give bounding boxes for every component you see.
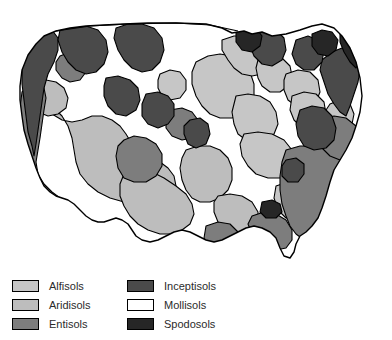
legend-label-alfisols: Alfisols xyxy=(49,280,84,292)
legend-swatch-mollisols xyxy=(127,299,154,311)
legend-item-spodosols[interactable]: Spodosols xyxy=(127,314,216,333)
legend-swatch-spodosols xyxy=(127,318,154,330)
legend-label-entisols: Entisols xyxy=(49,318,88,330)
region-spodosols-lake-superior xyxy=(236,26,262,52)
region-aridisols-florida-south xyxy=(334,232,358,252)
region-entisols-colorado-plateau xyxy=(116,136,162,182)
region-inceptisols-florida-east xyxy=(330,222,356,258)
region-inceptisols-ozarks xyxy=(282,158,304,182)
map-legend: Alfisols Aridisols Entisols Inceptisols … xyxy=(0,276,392,340)
region-entisols-florida-peninsula xyxy=(334,214,362,256)
legend-item-alfisols[interactable]: Alfisols xyxy=(12,276,91,295)
legend-label-spodosols: Spodosols xyxy=(164,318,215,330)
region-inceptisols-central-rockies xyxy=(142,92,174,128)
legend-swatch-aridisols xyxy=(12,299,39,311)
legend-column-right: Inceptisols Mollisols Spodosols xyxy=(127,276,216,333)
legend-label-aridisols: Aridisols xyxy=(49,299,91,311)
region-inceptisols-southern-rockies xyxy=(184,118,210,148)
legend-item-inceptisols[interactable]: Inceptisols xyxy=(127,276,216,295)
legend-item-mollisols[interactable]: Mollisols xyxy=(127,295,216,314)
region-spodosols-adirondacks xyxy=(312,30,338,56)
legend-column-left: Alfisols Aridisols Entisols xyxy=(12,276,91,333)
legend-label-inceptisols: Inceptisols xyxy=(164,280,216,292)
legend-item-aridisols[interactable]: Aridisols xyxy=(12,295,91,314)
map-area xyxy=(0,0,392,272)
map-regions xyxy=(0,0,392,272)
legend-swatch-entisols xyxy=(12,318,39,330)
soil-orders-figure: Alfisols Aridisols Entisols Inceptisols … xyxy=(0,0,392,340)
legend-item-entisols[interactable]: Entisols xyxy=(12,314,91,333)
legend-label-mollisols: Mollisols xyxy=(164,299,206,311)
legend-swatch-alfisols xyxy=(12,280,39,292)
united-states-soil-map xyxy=(0,0,392,272)
legend-swatch-inceptisols xyxy=(127,280,154,292)
